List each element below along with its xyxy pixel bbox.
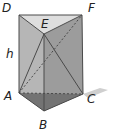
prism-diagram: D F E h A C B (0, 0, 116, 138)
label-C: C (87, 92, 96, 106)
label-B: B (39, 118, 47, 132)
label-E: E (41, 17, 49, 31)
label-h: h (6, 47, 14, 61)
label-D: D (2, 1, 11, 15)
label-F: F (88, 1, 96, 15)
label-A: A (3, 89, 12, 103)
